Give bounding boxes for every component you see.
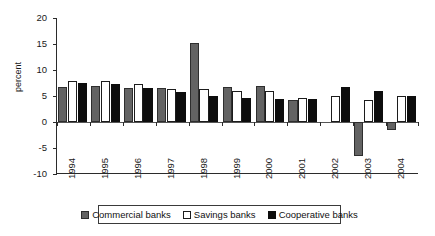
bar-commercial-1998: [190, 43, 199, 122]
y-axis-tick-label: 0: [21, 116, 47, 127]
bar-cooperative-2000: [275, 99, 284, 122]
bar-commercial-1995: [91, 86, 100, 122]
x-axis-tick-label: 2004: [395, 158, 406, 179]
bar-commercial-2001: [288, 100, 297, 122]
bar-commercial-1997: [157, 88, 166, 122]
y-axis-tick: -10: [53, 174, 57, 175]
x-axis-tick-label: 1996: [132, 158, 143, 179]
bar-savings-1998: [199, 89, 208, 122]
bar-cooperative-1997: [176, 92, 185, 122]
bar-commercial-2000: [256, 86, 265, 122]
x-axis-tick: [320, 122, 321, 126]
bar-savings-1996: [134, 84, 143, 122]
savings-swatch-icon: [183, 211, 191, 219]
y-axis-tick-label: -5: [21, 142, 47, 153]
bar-savings-2003: [364, 100, 373, 122]
legend-entry-cooperative: Cooperative banks: [268, 209, 358, 220]
x-axis-tick: [90, 122, 91, 126]
commercial-swatch-icon: [81, 211, 89, 219]
bar-savings-2004: [397, 96, 406, 122]
bar-savings-2002: [331, 96, 340, 122]
y-axis-tick-label: 15: [21, 38, 47, 49]
legend-label: Cooperative banks: [279, 209, 358, 220]
y-axis-tick: 5: [53, 96, 57, 97]
bar-cooperative-1996: [143, 88, 152, 122]
bar-savings-1995: [101, 81, 110, 122]
bar-cooperative-2004: [407, 96, 416, 122]
y-axis-tick-label: 20: [21, 12, 47, 23]
x-axis-tick-label: 1999: [231, 158, 242, 179]
x-axis-tick-label: 1998: [198, 158, 209, 179]
plot-inner: 20151050-5-10199419951996199719981999200…: [57, 18, 418, 173]
legend-label: Savings banks: [194, 209, 256, 220]
bar-savings-1999: [232, 91, 241, 122]
bar-cooperative-1995: [111, 84, 120, 122]
bar-commercial-2003: [354, 122, 363, 156]
y-axis-tick: 20: [53, 18, 57, 19]
x-axis-tick: [123, 122, 124, 126]
bar-chart-figure: percent 20151050-5-101994199519961997199…: [0, 0, 435, 236]
bar-cooperative-1998: [209, 96, 218, 122]
bar-commercial-1994: [58, 87, 67, 122]
y-axis-tick-label: 10: [21, 64, 47, 75]
legend-entry-savings: Savings banks: [183, 209, 256, 220]
bar-savings-1994: [68, 81, 77, 122]
x-axis-tick: [287, 122, 288, 126]
chart-legend: Commercial banksSavings banksCooperative…: [98, 205, 341, 224]
y-axis-title: percent: [13, 37, 23, 117]
bar-cooperative-2002: [341, 87, 350, 122]
bar-savings-2001: [298, 98, 307, 122]
bar-cooperative-2001: [308, 99, 317, 122]
x-axis-tick-label: 2003: [362, 158, 373, 179]
x-axis-tick: [189, 122, 190, 126]
x-axis-tick-label: 1995: [99, 158, 110, 179]
bar-cooperative-1994: [78, 83, 87, 122]
x-axis-tick: [156, 122, 157, 126]
y-axis-tick: 10: [53, 70, 57, 71]
x-axis-tick-label: 2001: [296, 158, 307, 179]
bar-savings-2000: [265, 91, 274, 122]
bar-commercial-2004: [387, 122, 396, 130]
legend-label: Commercial banks: [92, 209, 171, 220]
bar-commercial-1996: [124, 88, 133, 122]
x-axis-tick-label: 1994: [66, 158, 77, 179]
y-axis-tick-label: -10: [21, 168, 47, 179]
y-axis-tick: -5: [53, 148, 57, 149]
x-axis-tick: [222, 122, 223, 126]
plot-area: 20151050-5-10199419951996199719981999200…: [56, 18, 418, 174]
x-axis-tick: [418, 122, 419, 126]
y-axis-tick-label: 5: [21, 90, 47, 101]
bar-savings-1997: [167, 89, 176, 122]
bar-cooperative-2003: [374, 91, 383, 122]
x-axis-tick: [57, 122, 58, 126]
bar-commercial-1999: [223, 87, 232, 122]
zero-baseline: [57, 122, 418, 123]
cooperative-swatch-icon: [268, 211, 276, 219]
x-axis-tick-label: 2000: [263, 158, 274, 179]
legend-entry-commercial: Commercial banks: [81, 209, 171, 220]
y-axis-tick: 15: [53, 44, 57, 45]
bar-cooperative-1999: [242, 98, 251, 122]
x-axis-tick-label: 1997: [165, 158, 176, 179]
x-axis-tick-label: 2002: [329, 158, 340, 179]
x-axis-tick: [254, 122, 255, 126]
